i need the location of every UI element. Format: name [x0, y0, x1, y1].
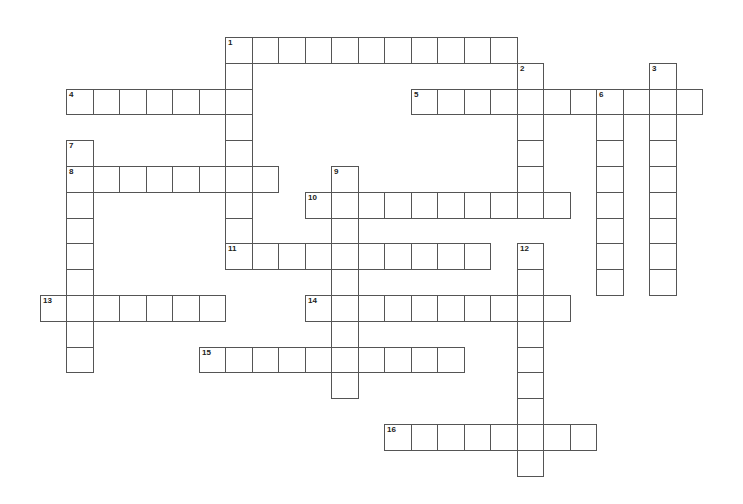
crossword-cell[interactable] [93, 166, 120, 193]
crossword-cell[interactable] [66, 321, 94, 348]
crossword-cell[interactable] [225, 140, 253, 167]
crossword-cell[interactable] [411, 424, 438, 451]
crossword-cell[interactable] [411, 192, 438, 219]
crossword-cell[interactable] [278, 37, 306, 64]
crossword-cell[interactable] [649, 218, 677, 244]
crossword-cell[interactable] [649, 269, 677, 296]
crossword-cell[interactable] [225, 89, 253, 115]
crossword-cell[interactable] [66, 295, 94, 322]
crossword-cell[interactable] [331, 37, 359, 64]
crossword-cell[interactable] [596, 243, 624, 270]
crossword-cell[interactable] [331, 192, 359, 219]
crossword-cell[interactable] [517, 192, 544, 219]
crossword-cell[interactable] [93, 295, 120, 322]
crossword-cell[interactable] [649, 166, 677, 193]
crossword-cell[interactable] [93, 89, 120, 115]
crossword-cell[interactable] [358, 243, 385, 270]
crossword-cell[interactable] [384, 37, 412, 64]
crossword-cell[interactable] [596, 166, 624, 193]
crossword-cell[interactable]: 12 [517, 243, 544, 270]
crossword-cell[interactable] [384, 295, 412, 322]
crossword-cell[interactable] [464, 295, 491, 322]
crossword-cell[interactable] [358, 192, 385, 219]
crossword-cell[interactable]: 2 [517, 63, 544, 90]
crossword-cell[interactable] [517, 114, 544, 141]
crossword-cell[interactable] [437, 295, 465, 322]
crossword-cell[interactable] [464, 192, 491, 219]
crossword-cell[interactable] [649, 114, 677, 141]
crossword-cell[interactable] [649, 192, 677, 219]
crossword-cell[interactable] [252, 347, 279, 373]
crossword-cell[interactable] [146, 89, 173, 115]
crossword-cell[interactable] [411, 347, 438, 373]
crossword-cell[interactable] [119, 295, 147, 322]
crossword-cell[interactable] [331, 295, 359, 322]
crossword-cell[interactable] [517, 347, 544, 373]
crossword-cell[interactable]: 14 [305, 295, 332, 322]
crossword-cell[interactable] [225, 114, 253, 141]
crossword-cell[interactable] [278, 347, 306, 373]
crossword-cell[interactable] [66, 243, 94, 270]
crossword-cell[interactable] [490, 89, 518, 115]
crossword-cell[interactable] [384, 347, 412, 373]
crossword-cell[interactable] [172, 295, 200, 322]
crossword-cell[interactable] [517, 295, 544, 322]
crossword-cell[interactable] [517, 450, 544, 477]
crossword-cell[interactable] [623, 89, 650, 115]
crossword-cell[interactable] [543, 192, 571, 219]
crossword-cell[interactable]: 13 [40, 295, 67, 322]
crossword-cell[interactable] [331, 372, 359, 399]
crossword-cell[interactable] [252, 166, 279, 193]
crossword-cell[interactable] [331, 321, 359, 348]
crossword-cell[interactable] [331, 243, 359, 270]
crossword-cell[interactable] [305, 37, 332, 64]
crossword-cell[interactable] [437, 89, 465, 115]
crossword-cell[interactable] [437, 192, 465, 219]
crossword-cell[interactable]: 6 [596, 89, 624, 115]
crossword-cell[interactable] [517, 424, 544, 451]
crossword-cell[interactable] [490, 192, 518, 219]
crossword-cell[interactable] [358, 295, 385, 322]
crossword-cell[interactable] [649, 140, 677, 167]
crossword-cell[interactable]: 3 [649, 63, 677, 90]
crossword-cell[interactable] [517, 140, 544, 167]
crossword-cell[interactable]: 9 [331, 166, 359, 193]
crossword-cell[interactable] [66, 192, 94, 219]
crossword-cell[interactable]: 11 [225, 243, 253, 270]
crossword-cell[interactable] [252, 37, 279, 64]
crossword-cell[interactable] [490, 37, 518, 64]
crossword-cell[interactable] [649, 243, 677, 270]
crossword-cell[interactable] [490, 424, 518, 451]
crossword-cell[interactable] [411, 37, 438, 64]
crossword-cell[interactable] [199, 295, 226, 322]
crossword-cell[interactable] [676, 89, 703, 115]
crossword-cell[interactable] [66, 218, 94, 244]
crossword-cell[interactable] [570, 424, 597, 451]
crossword-cell[interactable] [437, 347, 465, 373]
crossword-cell[interactable] [517, 372, 544, 399]
crossword-cell[interactable] [305, 347, 332, 373]
crossword-cell[interactable]: 7 [66, 140, 94, 167]
crossword-cell[interactable] [596, 218, 624, 244]
crossword-cell[interactable] [517, 166, 544, 193]
crossword-cell[interactable] [66, 347, 94, 373]
crossword-cell[interactable] [649, 89, 677, 115]
crossword-cell[interactable] [490, 295, 518, 322]
crossword-cell[interactable] [252, 243, 279, 270]
crossword-cell[interactable] [464, 424, 491, 451]
crossword-cell[interactable] [119, 89, 147, 115]
crossword-cell[interactable] [543, 295, 571, 322]
crossword-cell[interactable] [331, 269, 359, 296]
crossword-cell[interactable] [596, 114, 624, 141]
crossword-cell[interactable] [570, 89, 597, 115]
crossword-cell[interactable] [384, 243, 412, 270]
crossword-cell[interactable] [358, 347, 385, 373]
crossword-cell[interactable] [172, 166, 200, 193]
crossword-cell[interactable]: 4 [66, 89, 94, 115]
crossword-cell[interactable] [199, 166, 226, 193]
crossword-cell[interactable] [146, 295, 173, 322]
crossword-cell[interactable] [596, 140, 624, 167]
crossword-cell[interactable]: 5 [411, 89, 438, 115]
crossword-cell[interactable] [331, 218, 359, 244]
crossword-cell[interactable] [596, 192, 624, 219]
